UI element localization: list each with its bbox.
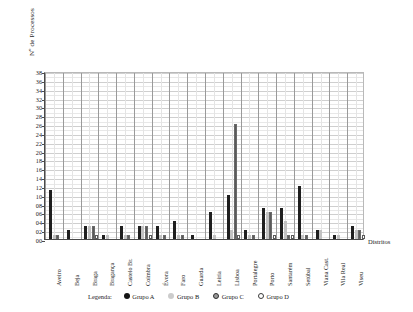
bar	[319, 230, 322, 239]
bar	[291, 235, 294, 239]
bar	[124, 235, 127, 239]
bar-group	[67, 230, 71, 239]
bar-group	[84, 226, 98, 239]
bar	[273, 235, 276, 239]
y-axis-tick-mark	[42, 223, 45, 224]
bar	[88, 226, 91, 239]
y-axis-tick-mark	[42, 161, 45, 162]
y-axis-tick-mark	[42, 144, 45, 145]
y-axis-tick-mark	[42, 126, 45, 127]
bar-group	[102, 235, 109, 239]
bar	[337, 235, 340, 239]
bar	[163, 235, 166, 239]
bar	[181, 235, 184, 239]
bar	[159, 235, 162, 239]
x-axis-tick-label: Bragança	[108, 263, 115, 286]
bar	[67, 230, 70, 239]
legend-swatch-icon	[213, 293, 219, 299]
bar	[355, 230, 358, 239]
bar-group	[351, 226, 365, 239]
legend-label: Grupo D	[266, 293, 289, 300]
bar	[213, 235, 216, 239]
bar-group	[280, 208, 294, 239]
x-axis-tick-label: Vila Real	[339, 263, 346, 286]
y-axis-tick-mark	[42, 197, 45, 198]
x-axis-tick-label: Leiria	[215, 271, 222, 286]
bar-group	[298, 186, 309, 239]
bar	[244, 230, 247, 239]
bar-series-container	[45, 73, 363, 239]
y-axis-tick-mark	[42, 188, 45, 189]
bar	[49, 190, 52, 239]
y-axis-tick-mark	[42, 179, 45, 180]
x-axis-tick-label: Coimbra	[144, 264, 151, 286]
bar	[234, 124, 237, 239]
bar	[305, 235, 308, 239]
x-axis-tick-label: Castelo Br.	[126, 259, 133, 287]
bar-group	[120, 226, 131, 239]
legend-title: Legenda:	[88, 293, 112, 300]
bar-chart: Nº de Processos 000204060810121416182022…	[0, 0, 413, 312]
bar-group	[173, 221, 184, 239]
bar	[362, 235, 365, 239]
legend-item: Grupo A	[124, 293, 155, 300]
legend-item: Grupo D	[258, 293, 289, 300]
bar	[141, 226, 144, 239]
bar	[120, 226, 123, 239]
legend-swatch-icon	[124, 293, 130, 299]
bar	[173, 221, 176, 239]
bar	[106, 235, 109, 239]
bar	[266, 212, 269, 239]
x-axis-tick-label: Porto	[268, 273, 275, 286]
bar	[95, 235, 98, 239]
bar	[262, 208, 265, 239]
y-axis-tick-mark	[42, 170, 45, 171]
bar-group	[138, 226, 152, 239]
bar-group	[49, 190, 60, 239]
legend-label: Grupo C	[222, 293, 244, 300]
bar-group	[262, 208, 276, 239]
bar	[149, 235, 152, 239]
legend-swatch-icon	[258, 293, 264, 299]
y-axis-title: Nº de Processos	[14, 0, 36, 6]
bar	[237, 235, 240, 239]
x-axis-tick-label: Lisboa	[233, 269, 240, 286]
legend-label: Grupo A	[132, 293, 154, 300]
legend-label: Grupo B	[177, 293, 199, 300]
y-axis-tick-mark	[42, 206, 45, 207]
bar-group	[209, 212, 216, 239]
x-axis-tick-label: Aveiro	[55, 269, 62, 286]
bar	[56, 235, 59, 239]
x-axis-tick-label: Braga	[91, 271, 98, 286]
bar	[333, 235, 336, 239]
y-axis-tick-mark	[42, 135, 45, 136]
bar	[280, 208, 283, 239]
legend-item: Grupo C	[213, 293, 244, 300]
x-axis-tick-labels: AveiroBejaBragaBragançaCastelo Br.Coimbr…	[44, 242, 364, 288]
bar-group	[227, 124, 241, 239]
y-axis-tick-mark	[42, 117, 45, 118]
bar	[287, 235, 290, 239]
bar	[177, 235, 180, 239]
y-axis-tick-mark	[42, 73, 45, 74]
x-axis-tick-label: Setúbal	[304, 267, 311, 286]
bar	[351, 226, 354, 239]
bar	[127, 235, 130, 239]
y-axis-tick-mark	[42, 232, 45, 233]
y-axis-tick-mark	[42, 100, 45, 101]
bar-group	[333, 235, 340, 239]
x-axis-tick-label: Guarda	[197, 268, 204, 286]
bar	[358, 230, 361, 239]
x-axis-tick-label: Santarém	[286, 263, 293, 286]
bar-group	[316, 230, 323, 239]
bar	[230, 230, 233, 239]
x-axis-tick-label: Évora	[162, 271, 169, 286]
bar	[252, 235, 255, 239]
bar	[53, 235, 56, 239]
x-axis-tick-label: Viseu	[357, 272, 364, 286]
bar	[248, 235, 251, 239]
bar	[227, 195, 230, 239]
x-axis-title: Distritos	[368, 238, 390, 245]
y-axis-title-text: Nº de Processos	[28, 8, 36, 68]
bar	[209, 212, 212, 239]
